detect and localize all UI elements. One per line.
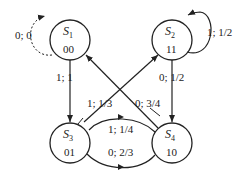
state-s1-code: 00 bbox=[63, 44, 74, 55]
state-s2-name: S2 bbox=[165, 25, 175, 40]
transition-s1-s1 bbox=[31, 16, 52, 55]
state-s3-code: 01 bbox=[64, 147, 75, 158]
state-s1-name: S1 bbox=[63, 25, 73, 40]
state-s4-name: S4 bbox=[165, 128, 175, 143]
label-s3-s2: 1; 1/3 bbox=[87, 98, 112, 109]
label-s1-s3: 1; 1 bbox=[56, 72, 73, 83]
label-s2-s2: 1; 1/2 bbox=[207, 27, 232, 38]
label-s1-s1: 0; 0 bbox=[15, 30, 32, 41]
label-s3-s4: 0; 2/3 bbox=[108, 147, 133, 158]
state-s3-name: S3 bbox=[63, 128, 73, 143]
label-s2-s4: 0; 1/2 bbox=[159, 72, 184, 83]
state-diagram: S1 00 S2 11 S3 01 S4 10 0; 0 1; 1 1; 1/2… bbox=[0, 0, 247, 175]
state-s2-code: 11 bbox=[166, 44, 177, 55]
state-s4-code: 10 bbox=[166, 147, 177, 158]
label-s4-s3: 1; 1/4 bbox=[108, 124, 133, 135]
label-s4-s1: 0; 3/4 bbox=[135, 98, 160, 109]
